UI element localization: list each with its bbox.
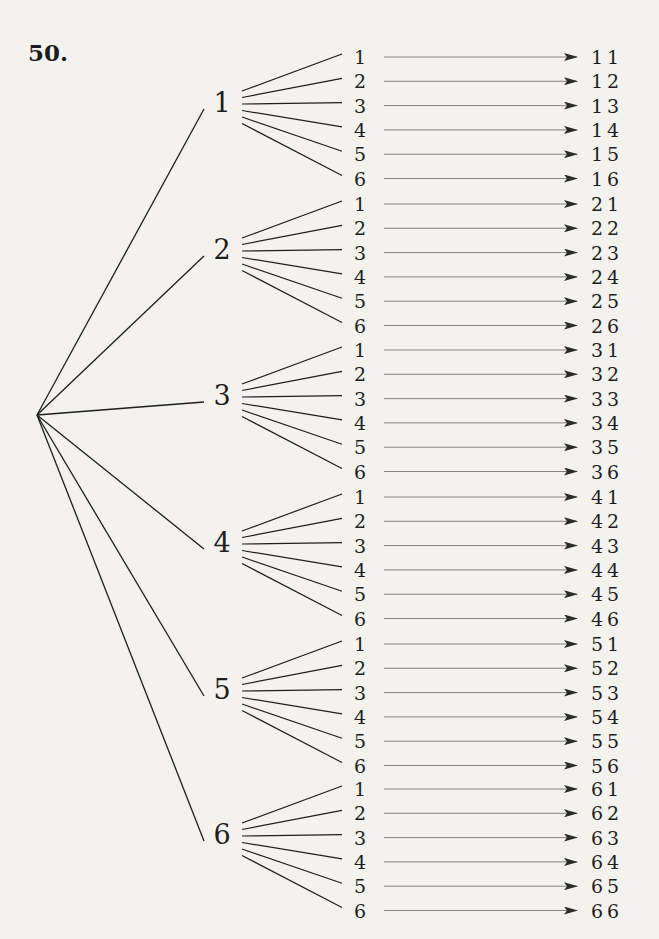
branch-line <box>37 415 204 549</box>
second-level-label: 4 <box>354 412 366 434</box>
branch-line <box>37 109 204 415</box>
outcome-label: 56 <box>591 755 623 777</box>
first-level-label: 3 <box>213 380 230 411</box>
second-level-label: 3 <box>354 535 366 557</box>
second-level-label: 2 <box>354 70 366 92</box>
sub-branch-line <box>242 264 342 298</box>
sub-branch-line <box>242 698 342 714</box>
second-level-label: 4 <box>354 706 366 728</box>
second-level-label: 3 <box>354 682 366 704</box>
outcome-label: 36 <box>591 461 623 483</box>
sub-branch-line <box>242 551 342 567</box>
sub-branch-line <box>242 641 342 678</box>
sub-branch-line <box>242 225 342 244</box>
second-level-label: 5 <box>354 730 366 752</box>
outcome-label: 14 <box>591 119 623 141</box>
second-level-label: 1 <box>354 778 366 800</box>
outcome-label: 52 <box>591 657 623 679</box>
second-level-label: 2 <box>354 217 366 239</box>
outcome-label: 66 <box>591 900 623 922</box>
outcome-label: 43 <box>591 535 623 557</box>
first-level-label: 4 <box>213 527 230 558</box>
outcome-label: 34 <box>591 412 623 434</box>
sub-branch-line <box>242 518 342 537</box>
second-level-label: 3 <box>354 388 366 410</box>
sub-branch-line <box>242 417 342 469</box>
outcome-label: 23 <box>591 242 623 264</box>
sub-branch-line <box>242 54 342 91</box>
sub-branch-line <box>242 557 342 591</box>
second-level-label: 5 <box>354 143 366 165</box>
outcome-label: 15 <box>591 143 623 165</box>
outcome-label: 63 <box>591 827 623 849</box>
sub-branch-line <box>242 371 342 390</box>
second-level-label: 2 <box>354 363 366 385</box>
outcome-label: 62 <box>591 802 623 824</box>
second-level-label: 2 <box>354 657 366 679</box>
first-level-label: 6 <box>213 819 230 850</box>
sub-branch-line <box>242 78 342 97</box>
sub-branch-line <box>242 786 342 823</box>
outcome-label: 13 <box>591 95 623 117</box>
sub-branch-line <box>242 347 342 384</box>
sub-branch-line <box>242 396 342 397</box>
first-level-label: 5 <box>213 674 230 705</box>
second-level-label: 6 <box>354 755 366 777</box>
second-level-label: 1 <box>354 193 366 215</box>
second-level-label: 6 <box>354 315 366 337</box>
second-level-label: 6 <box>354 461 366 483</box>
outcome-label: 21 <box>591 193 623 215</box>
outcome-label: 54 <box>591 706 623 728</box>
branch-line <box>37 256 204 415</box>
branch-line <box>37 415 204 841</box>
sub-branch-line <box>242 117 342 151</box>
sub-branch-line <box>242 271 342 323</box>
second-level-label: 4 <box>354 266 366 288</box>
second-level-label: 2 <box>354 510 366 532</box>
second-level-label: 4 <box>354 851 366 873</box>
sub-branch-line <box>242 494 342 531</box>
outcome-label: 32 <box>591 363 623 385</box>
outcome-label: 53 <box>591 682 623 704</box>
outcome-label: 12 <box>591 70 623 92</box>
second-level-label: 1 <box>354 46 366 68</box>
second-level-label: 4 <box>354 559 366 581</box>
second-level-label: 6 <box>354 168 366 190</box>
second-level-label: 1 <box>354 633 366 655</box>
second-level-label: 1 <box>354 486 366 508</box>
sub-branch-line <box>242 810 342 829</box>
outcome-label: 42 <box>591 510 623 532</box>
outcome-label: 33 <box>591 388 623 410</box>
tree-diagram: 1111212313414515616212122232342452562631… <box>0 0 659 939</box>
sub-branch-line <box>242 201 342 238</box>
sub-branch-line <box>242 856 342 908</box>
outcome-label: 64 <box>591 851 623 873</box>
sub-branch-line <box>242 410 342 444</box>
sub-branch-line <box>242 849 342 883</box>
sub-branch-line <box>242 704 342 738</box>
branch-line <box>37 415 204 696</box>
first-level-label: 2 <box>213 234 230 265</box>
second-level-label: 2 <box>354 802 366 824</box>
outcome-label: 25 <box>591 290 623 312</box>
outcome-label: 46 <box>591 608 623 630</box>
outcome-label: 55 <box>591 730 623 752</box>
first-level-label: 1 <box>213 87 230 118</box>
outcome-label: 24 <box>591 266 623 288</box>
sub-branch-line <box>242 843 342 859</box>
second-level-label: 5 <box>354 583 366 605</box>
outcome-label: 44 <box>591 559 623 581</box>
outcome-label: 61 <box>591 778 623 800</box>
second-level-label: 3 <box>354 827 366 849</box>
sub-branch-line <box>242 111 342 127</box>
second-level-label: 3 <box>354 242 366 264</box>
sub-branch-line <box>242 690 342 691</box>
sub-branch-line <box>242 543 342 544</box>
second-level-label: 5 <box>354 290 366 312</box>
second-level-label: 5 <box>354 875 366 897</box>
sub-branch-line <box>242 564 342 616</box>
second-level-label: 3 <box>354 95 366 117</box>
sub-branch-line <box>242 404 342 420</box>
outcome-label: 26 <box>591 315 623 337</box>
outcome-label: 31 <box>591 339 623 361</box>
